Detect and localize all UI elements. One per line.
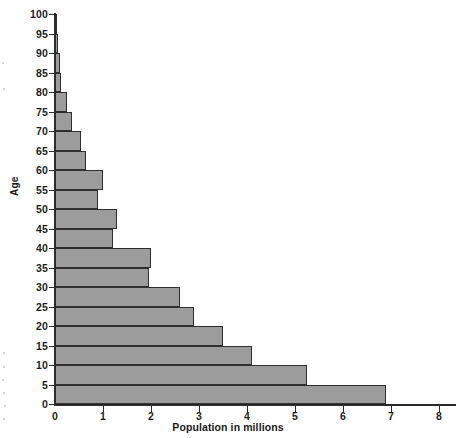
y-tick-mark-80 [49,92,55,93]
y-tick-mark-10 [49,365,55,366]
y-tick-label-5: 5 [0,380,48,390]
population-pyramid-chart: 0510152025303540455055606570758085909510… [0,0,456,438]
y-tick-label-15: 15 [0,341,48,351]
y-tick-mark-5 [49,385,55,386]
x-tick-mark-6 [343,406,344,412]
y-tick-label-20: 20 [0,321,48,331]
bar-age-25-30 [55,287,180,307]
bar-age-0-5 [55,385,386,405]
y-tick-mark-60 [49,170,55,171]
x-axis-title: Population in millions [0,421,456,433]
y-tick-mark-30 [49,287,55,288]
bar-age-15-20 [55,326,223,346]
y-tick-mark-15 [49,346,55,347]
y-tick-label-75: 75 [0,107,48,117]
y-axis-tick-labels: 0510152025303540455055606570758085909510… [0,0,48,438]
y-tick-mark-55 [49,190,55,191]
bar-age-65-70 [55,131,81,151]
y-tick-label-35: 35 [0,263,48,273]
x-tick-mark-8 [439,406,440,412]
bar-age-35-40 [55,248,151,268]
bar-age-10-15 [55,346,252,366]
bar-age-75-80 [55,92,67,112]
y-tick-mark-35 [49,268,55,269]
y-tick-label-25: 25 [0,302,48,312]
bar-age-50-55 [55,190,98,210]
y-tick-mark-0 [49,404,55,405]
x-axis-line [54,404,456,406]
y-tick-label-55: 55 [0,185,48,195]
bar-age-60-65 [55,151,86,171]
y-tick-mark-95 [49,34,55,35]
bar-age-45-50 [55,209,117,229]
y-tick-label-100: 100 [0,9,48,19]
x-tick-mark-1 [103,406,104,412]
x-tick-mark-7 [391,406,392,412]
bar-age-5-10 [55,365,307,385]
x-tick-mark-5 [295,406,296,412]
y-tick-mark-100 [49,14,55,15]
y-tick-label-10: 10 [0,360,48,370]
y-tick-mark-85 [49,73,55,74]
x-tick-mark-2 [151,406,152,412]
y-tick-label-85: 85 [0,68,48,78]
y-tick-label-80: 80 [0,87,48,97]
bar-age-70-75 [55,112,72,132]
y-tick-label-50: 50 [0,204,48,214]
y-tick-mark-90 [49,53,55,54]
y-tick-label-70: 70 [0,126,48,136]
y-tick-mark-20 [49,326,55,327]
y-tick-mark-65 [49,151,55,152]
bar-age-30-35 [55,268,149,288]
y-tick-label-90: 90 [0,48,48,58]
y-tick-label-45: 45 [0,224,48,234]
y-tick-label-0: 0 [0,399,48,409]
y-tick-mark-25 [49,307,55,308]
bar-age-55-60 [55,170,103,190]
x-tick-mark-3 [199,406,200,412]
y-tick-label-30: 30 [0,282,48,292]
y-tick-mark-75 [49,112,55,113]
y-tick-mark-50 [49,209,55,210]
x-tick-mark-4 [247,406,248,412]
y-tick-label-40: 40 [0,243,48,253]
bar-age-20-25 [55,307,194,327]
y-tick-mark-45 [49,229,55,230]
y-tick-mark-70 [49,131,55,132]
y-tick-label-95: 95 [0,29,48,39]
y-axis-title: Age [9,177,20,197]
y-tick-label-60: 60 [0,165,48,175]
y-tick-mark-40 [49,248,55,249]
y-tick-label-65: 65 [0,146,48,156]
bar-age-40-45 [55,229,113,249]
